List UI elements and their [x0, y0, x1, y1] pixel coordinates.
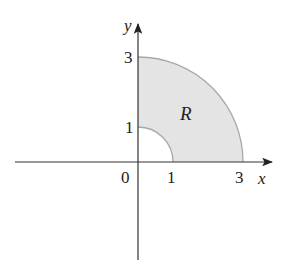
origin-label: 0: [121, 168, 130, 187]
x-tick-1: 1: [167, 168, 176, 187]
x-axis-label: x: [257, 169, 266, 188]
y-tick-1: 1: [125, 118, 134, 137]
y-axis-label: y: [122, 16, 132, 35]
y-tick-3: 3: [124, 48, 133, 67]
polar-region-diagram: y x 0 1 3 1 3 R: [0, 0, 285, 272]
x-tick-3: 3: [235, 168, 244, 187]
region-label: R: [179, 103, 192, 124]
